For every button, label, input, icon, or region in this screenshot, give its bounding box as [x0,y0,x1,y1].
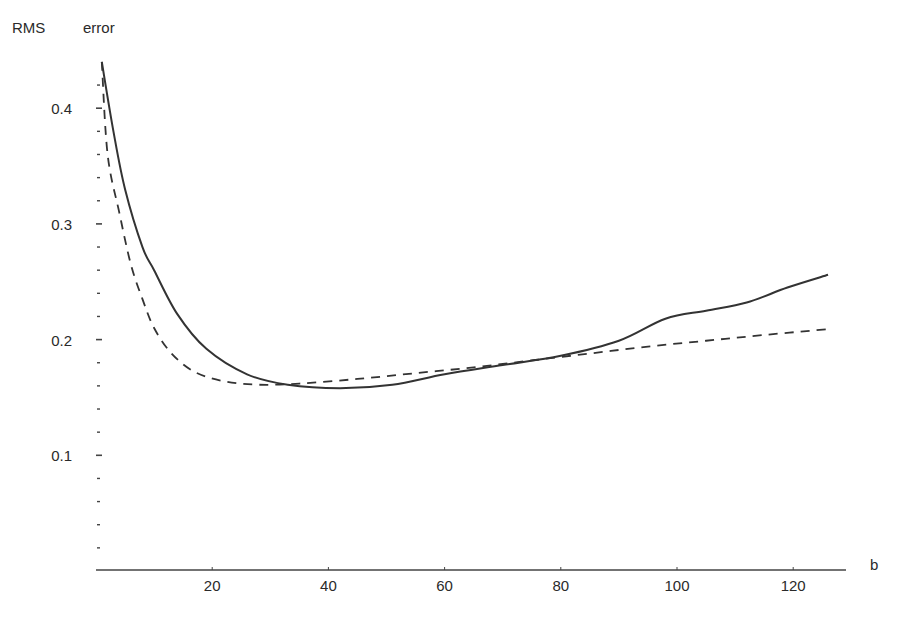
x-axis-title: b [870,556,878,573]
y-tick-label: 0.3 [51,216,72,233]
curves [102,62,828,388]
y-tick-label: 0.2 [51,332,72,349]
x-tick-label: 20 [204,577,221,594]
y-tick-label: 0.1 [51,447,72,464]
y-tick-label: 0.4 [51,100,72,117]
x-tick-label: 40 [320,577,337,594]
y-axis-title-rms: RMS [12,19,45,36]
x-tick-label: 100 [664,577,689,594]
x-tick-label: 60 [436,577,453,594]
x-tick-label: 120 [781,577,806,594]
solid-curve [102,62,828,388]
rms-error-chart: 204060801001200.10.20.30.4 RMS error b [0,0,898,623]
dashed-curve [102,62,828,385]
y-axis-title-error: error [83,19,115,36]
x-tick-label: 80 [552,577,569,594]
